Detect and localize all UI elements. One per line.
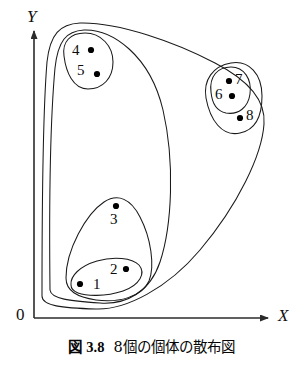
point-label-6: 6	[215, 87, 223, 102]
data-point-2	[123, 266, 129, 272]
point-label-3: 3	[110, 212, 118, 227]
point-label-5: 5	[77, 63, 85, 78]
data-point-1	[77, 281, 83, 287]
figure-container: Y X 0 1 2 3 4 5 6 7 8 図3.88個の個体の散布図	[0, 0, 303, 372]
point-label-7: 7	[235, 72, 243, 87]
cluster-contour-all	[42, 23, 264, 309]
y-axis-label: Y	[27, 8, 36, 25]
origin-label: 0	[16, 306, 25, 323]
data-point-3	[113, 203, 119, 209]
data-point-8	[237, 115, 243, 121]
cluster-contour-1-2	[71, 258, 142, 295]
point-label-8: 8	[246, 108, 254, 123]
data-point-6	[229, 93, 235, 99]
caption-fig-word: 図	[68, 338, 82, 355]
caption-text: 8個の個体の散布図	[113, 339, 234, 355]
point-label-4: 4	[72, 43, 80, 58]
data-points	[77, 47, 243, 287]
point-label-1: 1	[93, 277, 101, 292]
data-point-7	[226, 78, 232, 84]
data-point-5	[94, 71, 100, 77]
point-label-2: 2	[110, 262, 118, 277]
scatter-plot-svg	[0, 0, 303, 372]
caption-number: 3.8	[86, 339, 104, 355]
figure-caption: 図3.88個の個体の散布図	[0, 339, 303, 356]
data-point-4	[88, 47, 94, 53]
x-axis-label: X	[278, 307, 288, 324]
